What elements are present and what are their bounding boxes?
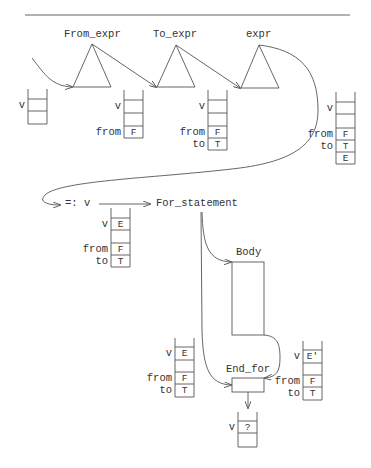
stack-5-from-value: F xyxy=(111,244,130,255)
expr-to-assign-curve xyxy=(43,45,318,205)
stack-7-from-value: F xyxy=(303,376,322,387)
stack-3-to-label: to xyxy=(160,139,205,150)
stack-5-to-value: T xyxy=(111,256,130,267)
expr-triangle xyxy=(241,45,279,88)
stack-8-v-label: v xyxy=(215,422,235,433)
stack-3-v-label: v xyxy=(160,101,205,112)
stack-6-to-label: to xyxy=(120,385,172,396)
stack-5-v-value: E xyxy=(111,219,130,230)
stack-5-v-label: v xyxy=(60,219,108,230)
stack-8-v-value: ? xyxy=(238,422,257,433)
assign-label: =: v xyxy=(65,198,90,209)
for-to-endfor-arrow xyxy=(201,212,231,385)
for-to-body-arrow xyxy=(202,212,231,262)
stack-5-from-label: from xyxy=(60,244,108,255)
stack-3-from-value: F xyxy=(208,127,227,138)
stack-4-from-value: F xyxy=(336,129,355,140)
stack-4-v-label: v xyxy=(290,103,333,114)
stack-6-from-label: from xyxy=(120,373,172,384)
stack-6-v-label: v xyxy=(120,348,172,359)
stack-7-to-value: T xyxy=(303,388,322,399)
for-statement-diagram: From_expr To_expr expr =: v For_statemen… xyxy=(0,0,371,468)
stack-7-v-label: v xyxy=(260,351,300,362)
stack-3-from-label: from xyxy=(160,127,205,138)
body-label: Body xyxy=(236,247,261,258)
stack-1-v-label: v xyxy=(0,100,25,111)
to-expr-triangle xyxy=(157,45,195,87)
stack-2-from-value: F xyxy=(124,127,143,138)
from-expr-triangle xyxy=(73,44,111,87)
stack-4-expr-value: E xyxy=(336,153,355,164)
body-box xyxy=(232,262,264,335)
stack-6-v-value: E xyxy=(175,348,194,359)
end-for-label: End_for xyxy=(226,364,270,375)
stack-4-from-label: from xyxy=(290,129,333,140)
stack-6-to-value: T xyxy=(175,385,194,396)
stack-7-v-value: E' xyxy=(303,351,322,362)
stack-2-from-label: from xyxy=(80,127,121,138)
for-statement-label: For_statement xyxy=(156,198,238,209)
to-expr-label: To_expr xyxy=(153,29,197,40)
stack-5-to-label: to xyxy=(60,256,108,267)
stack-4-to-value: T xyxy=(336,141,355,152)
expr-label: expr xyxy=(246,29,271,40)
stack-4-to-label: to xyxy=(290,141,333,152)
stack-2-v-label: v xyxy=(80,101,121,112)
from-expr-label: From_expr xyxy=(64,29,121,40)
stack-3-to-value: T xyxy=(208,139,227,150)
entry-arrow xyxy=(32,58,72,87)
stack-7-from-label: from xyxy=(260,376,300,387)
stack-7-to-label: to xyxy=(260,388,300,399)
stack-6-from-value: F xyxy=(175,373,194,384)
stack-1 xyxy=(28,89,47,124)
